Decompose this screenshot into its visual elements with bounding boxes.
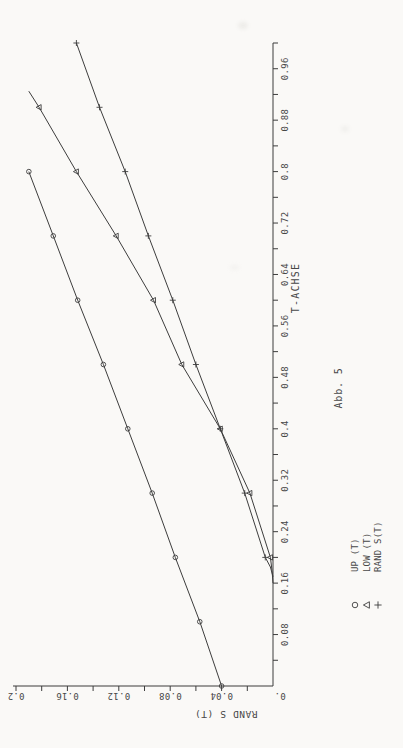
- y-tick-label: 0.2: [7, 691, 24, 701]
- y-tick-label: 0.16: [56, 691, 79, 701]
- scan-smudge: [230, 265, 239, 270]
- y-axis-title: RAND S (T): [194, 709, 257, 720]
- legend-label-rand: RAND S(T): [373, 521, 383, 572]
- x-tick-label: 0.56: [280, 314, 290, 337]
- rotated-chart-container: T-ACHSE RAND S (T) 0. Abb. 5 UP (T) LOW …: [0, 0, 403, 748]
- x-tick-label: 0.8: [280, 163, 290, 180]
- x-tick-label: 0.48: [280, 366, 290, 389]
- scanned-page: T-ACHSE RAND S (T) 0. Abb. 5 UP (T) LOW …: [0, 0, 403, 748]
- x-tick-label: 0.88: [280, 109, 290, 132]
- series-2-plus-marker: [145, 233, 151, 239]
- x-tick-label: 0.72: [280, 212, 290, 235]
- legend-circle-marker: [352, 602, 358, 608]
- series-line-2: [76, 43, 273, 577]
- x-tick-label: 0.64: [280, 263, 290, 286]
- scan-smudge: [341, 126, 349, 132]
- x-tick-label: 0.32: [280, 469, 290, 492]
- x-tick-label: 0.96: [280, 57, 290, 80]
- series-2-plus-marker: [97, 104, 103, 110]
- chart-canvas: T-ACHSE RAND S (T) 0. Abb. 5 UP (T) LOW …: [0, 0, 403, 748]
- y-tick-label: 0.08: [159, 691, 182, 701]
- origin-tick-label: 0.: [274, 691, 285, 701]
- y-tick-label: 0.12: [107, 691, 130, 701]
- x-tick-label: 0.16: [280, 572, 290, 595]
- series-2-plus-marker: [262, 554, 268, 560]
- legend-triangle-marker: [363, 602, 369, 608]
- series-2-plus-marker: [170, 297, 176, 303]
- series-2-plus-marker: [122, 169, 128, 175]
- series-2-plus-marker: [242, 490, 248, 496]
- x-tick-label: 0.4: [280, 420, 290, 437]
- y-tick-label: 0.04: [210, 691, 233, 701]
- x-tick-label: 0.24: [280, 520, 290, 543]
- x-tick-label: 0.08: [280, 623, 290, 646]
- legend-label-up: UP (T): [350, 538, 360, 572]
- figure-caption: Abb. 5: [333, 368, 344, 409]
- legend-label-low: LOW (T): [362, 533, 372, 572]
- series-line-1: [29, 91, 273, 583]
- scan-smudge: [238, 22, 248, 29]
- series-2-plus-marker: [73, 40, 79, 46]
- series-2-plus-marker: [193, 362, 199, 368]
- x-axis-title: T-ACHSE: [290, 263, 301, 314]
- legend-plus-marker: [374, 601, 381, 608]
